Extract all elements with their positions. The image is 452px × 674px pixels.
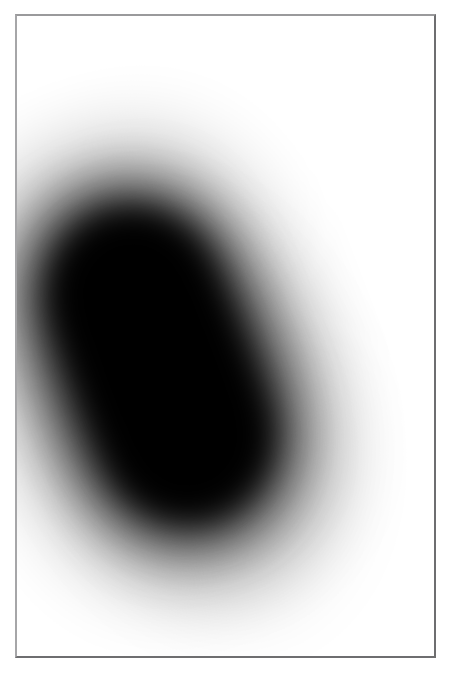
heatmap-canvas xyxy=(17,16,434,656)
screenshot-root xyxy=(0,0,452,674)
figure-panel xyxy=(15,14,436,658)
